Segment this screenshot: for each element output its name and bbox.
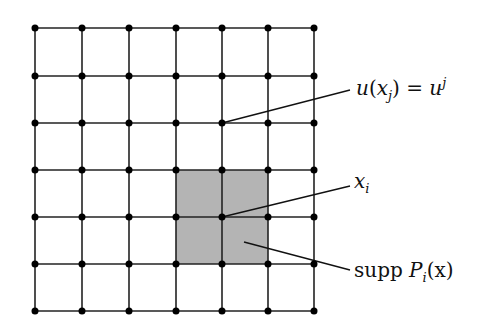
grid-node <box>173 308 180 315</box>
label-u: u <box>356 76 369 100</box>
grid-node <box>219 167 226 174</box>
grid-node <box>311 25 318 32</box>
grid-node <box>79 261 86 268</box>
grid-node <box>32 308 39 315</box>
label-equals: = <box>400 76 429 100</box>
label-sub-j: j <box>388 88 392 103</box>
grid-node <box>173 73 180 80</box>
grid-node <box>79 120 86 127</box>
label-sub-i: i <box>365 181 369 196</box>
grid-node <box>32 261 39 268</box>
grid-node <box>126 167 133 174</box>
grid-node <box>265 120 272 127</box>
grid-node <box>79 308 86 315</box>
label-node-value: u(xj) = uj <box>356 76 446 100</box>
grid-node <box>219 214 226 221</box>
grid-node <box>173 261 180 268</box>
grid-node <box>173 120 180 127</box>
grid-node <box>79 167 86 174</box>
grid-node <box>173 214 180 221</box>
label-x-i: x <box>354 169 365 193</box>
grid-node <box>79 25 86 32</box>
label-arg: (x) <box>427 258 454 282</box>
grid-node <box>311 308 318 315</box>
node-value-leader <box>222 90 350 123</box>
grid-node <box>126 25 133 32</box>
label-sup-j: j <box>442 75 446 90</box>
grid-node <box>311 261 318 268</box>
grid-node <box>311 214 318 221</box>
label-x: x <box>377 76 388 100</box>
grid-node <box>219 261 226 268</box>
grid-node <box>32 25 39 32</box>
label-support: supp Pi(x) <box>354 258 454 282</box>
grid-node <box>32 167 39 174</box>
grid-node <box>265 25 272 32</box>
grid-node <box>265 73 272 80</box>
label-sub-i-P: i <box>423 270 427 285</box>
grid-node <box>79 214 86 221</box>
grid-node <box>265 167 272 174</box>
label-paren-open: ( <box>369 76 377 100</box>
grid-node <box>173 167 180 174</box>
grid-node <box>126 261 133 268</box>
grid-node <box>126 73 133 80</box>
label-paren-close: ) <box>392 76 400 100</box>
grid-node <box>126 308 133 315</box>
grid-node <box>219 120 226 127</box>
grid-node <box>32 73 39 80</box>
grid-node <box>311 73 318 80</box>
grid-node <box>219 73 226 80</box>
grid-node <box>311 120 318 127</box>
label-supp: supp <box>354 258 409 282</box>
grid-node <box>265 214 272 221</box>
grid-node <box>265 261 272 268</box>
grid-node <box>219 25 226 32</box>
grid-node <box>32 120 39 127</box>
label-P: P <box>409 258 422 282</box>
grid-node <box>265 308 272 315</box>
grid-node <box>311 167 318 174</box>
grid-node <box>219 308 226 315</box>
grid-node <box>126 214 133 221</box>
label-node-xi: xi <box>354 169 369 193</box>
grid-node <box>79 73 86 80</box>
grid-node <box>173 25 180 32</box>
grid-node <box>126 120 133 127</box>
grid-node <box>32 214 39 221</box>
label-u-j: u <box>429 76 442 100</box>
